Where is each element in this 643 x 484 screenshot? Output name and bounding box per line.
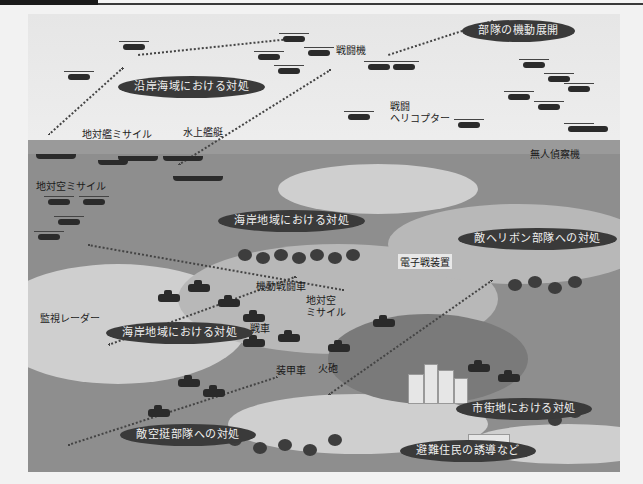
tree-icon bbox=[292, 252, 306, 264]
transport-helicopter-icon bbox=[523, 62, 545, 68]
attack-helicopter-icon bbox=[458, 122, 480, 128]
tank-icon bbox=[158, 294, 180, 302]
fighter-jet-icon bbox=[283, 36, 305, 42]
fighter-jet-icon bbox=[368, 64, 390, 70]
label-fighter: 戦闘機 bbox=[336, 42, 366, 57]
transport-helicopter-icon bbox=[538, 104, 560, 110]
tree-icon bbox=[328, 252, 342, 264]
tree-icon bbox=[278, 439, 292, 451]
tank-icon bbox=[218, 299, 240, 307]
tank-icon bbox=[278, 334, 300, 342]
transport-helicopter-icon bbox=[568, 86, 590, 92]
transport-helicopter-icon bbox=[508, 94, 530, 100]
tank-icon bbox=[203, 389, 225, 397]
building-icon bbox=[424, 364, 438, 404]
tank-icon bbox=[188, 284, 210, 292]
label-attack-heli-2: ヘリコプター bbox=[390, 110, 450, 125]
tree-icon bbox=[528, 276, 542, 288]
building-icon bbox=[454, 378, 468, 404]
attack-helicopter-icon bbox=[348, 114, 370, 120]
header-bar bbox=[0, 0, 643, 5]
tree-icon bbox=[310, 249, 324, 261]
callout-mobility: 部隊の機動展開 bbox=[462, 20, 575, 42]
illustration-frame: 部隊の機動展開 沿岸海域における対処 海岸地域における対処 敵ヘリボン部隊への対… bbox=[28, 14, 620, 472]
header-rule bbox=[98, 3, 643, 5]
label-mobile-combat-vehicle: 機動戦闘車 bbox=[256, 278, 306, 293]
label-sam-inland-2: ミサイル bbox=[306, 304, 346, 319]
callout-evacuation: 避難住民の誘導など bbox=[400, 440, 536, 462]
fighter-jet-icon bbox=[123, 44, 145, 50]
transport-helicopter-icon bbox=[548, 76, 570, 82]
tank-icon bbox=[373, 319, 395, 327]
attack-helicopter-icon bbox=[38, 234, 60, 240]
tree-icon bbox=[346, 249, 360, 261]
fighter-jet-icon bbox=[393, 64, 415, 70]
tank-icon bbox=[243, 339, 265, 347]
fighter-jet-icon bbox=[258, 54, 280, 60]
tank-icon bbox=[468, 364, 490, 372]
tree-icon bbox=[303, 444, 317, 456]
callout-coastal-sea: 沿岸海域における対処 bbox=[118, 76, 265, 98]
callout-coastal-area-upper: 海岸地域における対処 bbox=[218, 210, 365, 232]
fighter-jet-icon bbox=[278, 68, 300, 74]
label-artillery: 火砲 bbox=[318, 360, 338, 375]
uav-icon bbox=[568, 126, 608, 132]
ship-icon bbox=[36, 154, 76, 159]
tree-icon bbox=[274, 249, 288, 261]
fighter-jet-icon bbox=[308, 50, 330, 56]
tank-icon bbox=[498, 374, 520, 382]
callout-coastal-area-lower: 海岸地域における対処 bbox=[106, 322, 253, 344]
callout-airborne: 敵空挺部隊への対処 bbox=[120, 424, 256, 446]
ship-icon bbox=[163, 156, 203, 161]
label-apc: 装甲車 bbox=[276, 362, 306, 377]
building-icon bbox=[438, 370, 454, 404]
tank-icon bbox=[148, 409, 170, 417]
fighter-jet-icon bbox=[68, 74, 90, 80]
tree-icon bbox=[508, 279, 522, 291]
label-ew-unit: 電子戦装置 bbox=[398, 254, 452, 269]
attack-helicopter-icon bbox=[48, 199, 70, 205]
ship-icon bbox=[173, 176, 223, 181]
attack-helicopter-icon bbox=[83, 199, 105, 205]
tank-icon bbox=[178, 379, 200, 387]
label-uav: 無人偵察機 bbox=[530, 146, 580, 161]
attack-helicopter-icon bbox=[58, 219, 80, 225]
ship-icon bbox=[118, 156, 158, 161]
tree-icon bbox=[548, 282, 562, 294]
tree-icon bbox=[256, 252, 270, 264]
label-surveillance-radar: 監視レーダー bbox=[40, 310, 100, 325]
callout-urban: 市街地における対処 bbox=[456, 398, 592, 420]
tree-icon bbox=[568, 276, 582, 288]
building-icon bbox=[408, 374, 424, 404]
tree-icon bbox=[238, 249, 252, 261]
label-sam-coast: 地対空ミサイル bbox=[36, 178, 106, 193]
label-surface-ship: 水上艦艇 bbox=[183, 124, 223, 139]
terrain-band bbox=[278, 164, 478, 214]
callout-enemy-heliborne: 敵ヘリボン部隊への対処 bbox=[458, 228, 617, 250]
tree-icon bbox=[328, 434, 342, 446]
tree-icon bbox=[253, 442, 267, 454]
header-tab bbox=[0, 0, 98, 5]
label-anti-ship-missile: 地対艦ミサイル bbox=[82, 126, 152, 141]
label-tank: 戦車 bbox=[250, 320, 270, 335]
tank-icon bbox=[328, 344, 350, 352]
